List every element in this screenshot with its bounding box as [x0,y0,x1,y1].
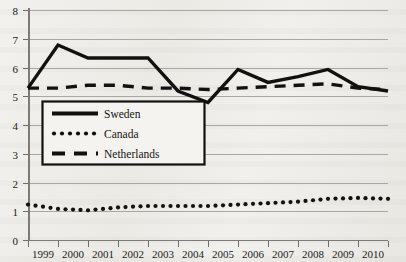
data-point [318,197,322,201]
data-point [326,197,330,201]
data-point [176,204,180,208]
data-point [191,204,195,208]
x-axis-label-2003: 2003 [152,248,175,260]
data-point [56,207,60,211]
data-point [363,196,367,200]
data-point [168,204,172,208]
data-point [333,196,337,200]
y-axis-label-5: 5 [13,91,19,103]
data-point [356,196,360,200]
x-axis-label-1999: 1999 [32,248,55,260]
y-axis-labels: 8 7 6 5 4 3 2 1 0 [13,5,19,247]
legend-label: Canada [104,128,138,140]
x-axis-label-2009: 2009 [332,248,355,260]
data-point [78,208,82,212]
legend-swatch-dot [60,131,64,135]
y-axis-label-1: 1 [13,206,19,218]
data-point [258,201,262,205]
chart-legend[interactable]: SwedenCanadaNetherlands [43,102,205,165]
data-point [273,201,277,205]
legend-label: Sweden [104,108,141,120]
legend-label: Netherlands [104,148,160,160]
line-chart: 8 7 6 5 4 3 2 1 0 1999200020012002200320… [0,0,406,262]
data-point [86,208,90,212]
data-point [108,206,112,210]
data-point [371,196,375,200]
data-point [303,199,307,203]
data-point [131,205,135,209]
legend-swatch-dot [52,131,56,135]
x-axis-label-2010: 2010 [362,248,385,260]
series-sweden [28,45,388,103]
y-axis-label-3: 3 [13,149,19,161]
data-point [116,205,120,209]
data-point [348,196,352,200]
data-point [93,207,97,211]
data-point [26,202,30,206]
y-axis-label-2: 2 [13,178,19,190]
data-point [41,205,45,209]
data-point [101,207,105,211]
data-point [48,206,52,210]
x-axis-label-2000: 2000 [62,248,85,260]
data-point [386,197,390,201]
legend-swatch-dot [92,131,96,135]
data-point [161,204,165,208]
y-axis-label-4: 4 [13,120,19,132]
data-point [221,203,225,207]
data-point [288,200,292,204]
legend-swatch-dot [76,131,80,135]
data-point [251,202,255,206]
y-axis-label-6: 6 [13,63,19,75]
data-point [153,204,157,208]
data-point [213,204,217,208]
data-point [33,204,37,208]
data-point [183,204,187,208]
legend-swatch-dot [68,131,72,135]
y-axis-label-7: 7 [13,34,19,46]
x-axis-label-2008: 2008 [302,248,325,260]
y-axis-label-8: 8 [13,5,19,17]
x-axis-label-2007: 2007 [272,248,295,260]
data-point [123,205,127,209]
data-point [206,204,210,208]
data-point [71,207,75,211]
data-point [281,200,285,204]
data-point [146,204,150,208]
data-point [243,202,247,206]
x-axis-label-2006: 2006 [242,248,265,260]
data-point [266,201,270,205]
x-axis-label-2002: 2002 [122,248,144,260]
data-point [311,198,315,202]
data-point [228,203,232,207]
data-point [341,196,345,200]
data-point [296,200,300,204]
x-axis-label-2004: 2004 [182,248,205,260]
x-axis-labels: 1999200020012002200320042005200620072008… [32,248,385,260]
x-axis-label-2005: 2005 [212,248,235,260]
data-point [236,202,240,206]
data-point [138,204,142,208]
series-netherlands [28,84,388,90]
data-point [198,204,202,208]
series-canada [26,196,390,213]
data-point [63,207,67,211]
data-point [378,196,382,200]
x-axis-ticks [29,241,389,247]
y-axis-label-0: 0 [13,235,19,247]
legend-swatch-dot [84,131,88,135]
x-axis-label-2001: 2001 [92,248,114,260]
